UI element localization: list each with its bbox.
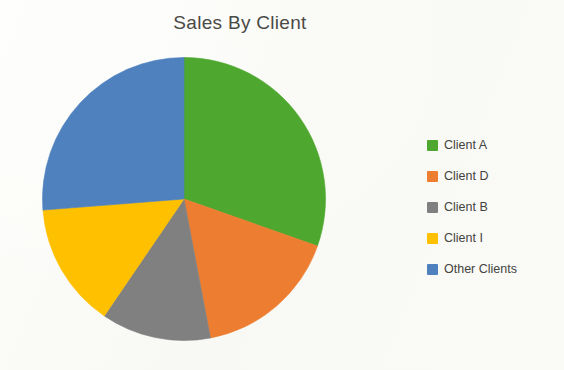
legend-color-swatch [427,140,438,151]
pie-plot-area [42,57,326,341]
pie-chart: Sales By Client Client AClient DClient B… [0,0,564,370]
legend-item[interactable]: Client B [427,194,559,220]
legend-item[interactable]: Client D [427,163,559,189]
pie-slice[interactable] [42,58,184,211]
legend-item-label: Client I [444,232,483,245]
legend-item-label: Client D [444,170,488,183]
legend-color-swatch [427,202,438,213]
legend-item[interactable]: Client A [427,132,559,158]
pie-slice-group [42,58,325,341]
legend-color-swatch [427,264,438,275]
chart-legend: Client AClient DClient BClient IOther Cl… [427,132,559,287]
legend-item-label: Other Clients [444,263,517,276]
legend-color-swatch [427,171,438,182]
chart-title-text: Sales By Client [173,12,306,34]
legend-item[interactable]: Other Clients [427,256,559,282]
legend-item[interactable]: Client I [427,225,559,251]
legend-item-label: Client A [444,139,487,152]
legend-item-label: Client B [444,201,488,214]
legend-color-swatch [427,233,438,244]
pie-svg [42,57,326,341]
chart-title: Sales By Client [0,12,564,34]
